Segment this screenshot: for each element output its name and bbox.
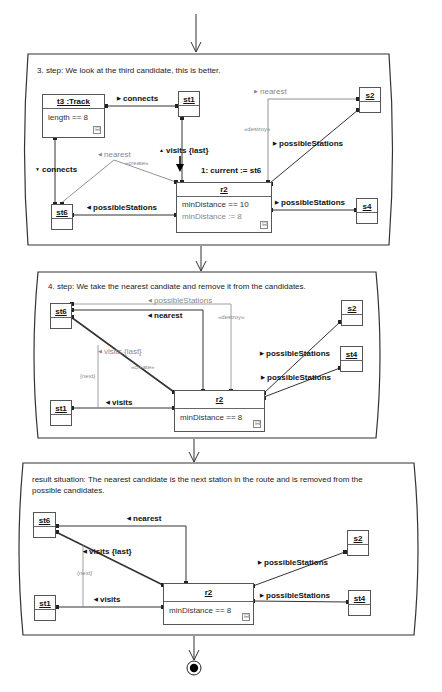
object-r2[interactable]: r2 minDistance == 8 ⊟ [163,583,254,625]
link-label-possible-stations: ▶possibleStations [261,373,331,382]
direction-left-icon: ◀ [83,548,87,554]
object-name: st4 [341,347,362,361]
object-st6[interactable]: st6 [51,204,73,230]
collaboration-message: 1: current := st6 [201,166,261,175]
link-label-possible-stations: ▶possibleStations [258,558,328,567]
object-name: s2 [360,88,380,102]
direction-down-icon: ▼ [35,166,40,172]
object-name: s4 [357,199,377,213]
link-label-nearest: ▶nearest [254,87,287,96]
link-label-possible-stations: ▶possibleStations [275,198,345,207]
object-name: st6 [51,304,71,318]
direction-left-icon: ◀ [98,151,102,157]
direction-right-icon: ▶ [254,88,258,94]
object-attribute: minDistance == 8 [175,409,264,427]
direction-left-icon: ◀ [98,348,102,354]
link-label-possible-stations: ▶possibleStations [273,139,343,148]
direction-left-icon: ◀ [127,515,131,521]
link-label-visits-last: ◀visits {last} [98,347,142,356]
direction-left-icon: ◀ [148,312,152,318]
object-st4[interactable]: st4 [348,590,371,616]
panel-caption: result situation: The nearest candidate … [32,474,363,496]
object-st6[interactable]: st6 [33,512,56,538]
direction-right-icon: ▶ [260,350,264,356]
object-r2[interactable]: r2 minDistance == 8 ⊟ [174,390,265,432]
object-name: s2 [342,301,362,315]
link-label-visits: ◀visits [106,398,132,407]
link-label-nearest-create: ◀nearest [98,150,131,159]
direction-left-icon: ◀ [148,297,152,303]
stereotype-create: «create» [125,160,148,166]
link-label-nearest: ◀nearest [148,311,182,320]
collapse-icon[interactable]: ⊟ [242,613,250,621]
collapse-icon[interactable]: ⊟ [253,420,261,428]
link-label-connects: ▶connects [117,94,158,103]
object-name: r2 [177,183,271,197]
link-label-visits-last: ▲visits {last} [159,146,209,155]
object-name: r2 [175,391,264,409]
object-name: st1 [35,596,55,610]
object-s2[interactable]: s2 [341,300,363,326]
link-label-possible-stations: ◀possibleStations [87,203,157,212]
object-st6[interactable]: st6 [50,303,72,329]
panel-caption: 3. step: We look at the third candidate,… [37,65,221,76]
link-label-next: {next} [77,570,92,576]
direction-right-icon: ▶ [258,559,262,565]
stereotype-create: «create» [131,364,154,370]
object-r2[interactable]: r2 minDistance == 10 minDistance := 8 ⊟ [176,182,272,233]
link-label-next: {next} [80,373,95,379]
object-st1[interactable]: st1 [50,400,72,426]
object-attribute: minDistance == 8 [164,602,253,620]
object-name: st1 [179,92,199,106]
object-name: st6 [52,205,72,219]
direction-left-icon: ◀ [87,204,91,210]
object-st1[interactable]: st1 [178,91,200,117]
direction-right-icon: ▶ [261,374,265,380]
link-label-visits: ◀visits [94,595,120,604]
direction-right-icon: ▶ [117,95,121,101]
stereotype-destroy: «destroy» [218,314,244,320]
object-name: t3 :Track [43,95,104,109]
direction-up-icon: ▲ [159,147,164,153]
link-label-possible-stations: ▶possibleStations [260,349,330,358]
object-attribute: minDistance == 10 [177,199,271,211]
link-label-possible-stations: ▶possibleStations [260,591,330,600]
link-label-connects: ▼connects [35,165,77,174]
object-st1[interactable]: st1 [34,595,56,621]
object-s2[interactable]: s2 [359,87,381,113]
direction-left-icon: ◀ [94,596,98,602]
link-label-visits-last: ◀visits {last} [83,547,132,556]
collapse-icon[interactable]: ⊟ [93,126,101,134]
object-attribute: length == 8 [43,109,104,127]
direction-right-icon: ▶ [273,140,277,146]
direction-right-icon: ▶ [260,592,264,598]
object-name: r2 [164,584,253,602]
direction-left-icon: ◀ [106,399,110,405]
object-st4[interactable]: st4 [340,346,363,372]
direction-right-icon: ▶ [275,199,279,205]
object-name: s2 [348,531,368,545]
object-name: st4 [349,591,370,605]
object-attribute-assignment: minDistance := 8 [177,211,271,223]
object-s2[interactable]: s2 [347,530,369,556]
object-track[interactable]: t3 :Track length == 8 ⊟ [42,94,105,138]
final-state-icon [187,661,201,675]
object-name: st6 [34,513,55,527]
link-label-nearest: ◀nearest [127,514,161,523]
object-name: st1 [51,401,71,415]
link-label-possible-stations: ◀possibleStations [148,296,212,305]
stereotype-destroy: «destroy» [244,126,270,132]
collapse-icon[interactable]: ⊟ [260,221,268,229]
object-s4[interactable]: s4 [356,198,378,224]
panel-caption: 4. step: We take the nearest candiate an… [48,281,306,292]
